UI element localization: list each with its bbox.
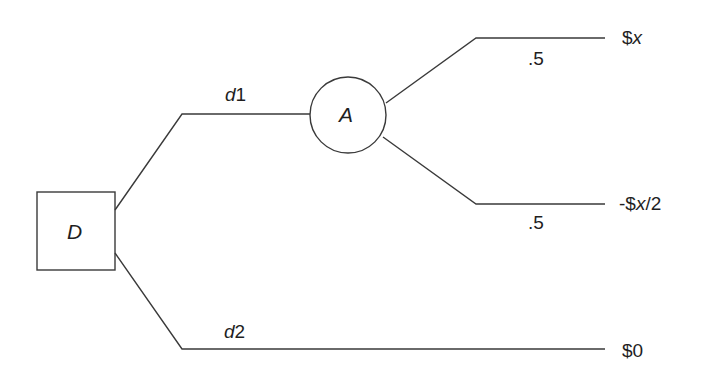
branch-a-up-line (386, 38, 605, 103)
outcome-neg-half-x-suffix: /2 (645, 193, 661, 214)
branch-d1-number: 1 (236, 84, 247, 105)
outcome-x-prefix: $ (622, 27, 633, 48)
branch-d2-line (115, 253, 605, 349)
probability-down-label: .5 (528, 213, 544, 232)
chance-node-label: A (339, 104, 353, 125)
decision-node-label: D (67, 221, 82, 242)
branch-d2-letter: d (224, 321, 235, 342)
branch-d1-line (115, 114, 310, 210)
branch-d2-number: 2 (235, 321, 246, 342)
outcome-x-label: $x (622, 28, 642, 47)
probability-up-label: .5 (528, 49, 544, 68)
decision-tree-diagram: D A d1 d2 .5 .5 $x -$x/2 $0 (0, 0, 708, 374)
branch-d2-label: d2 (224, 322, 245, 341)
outcome-neg-half-x-label: -$x/2 (619, 194, 661, 213)
branch-a-down-line (383, 137, 605, 204)
branch-d1-letter: d (225, 84, 236, 105)
outcome-x-var: x (633, 27, 643, 48)
branch-d1-label: d1 (225, 85, 246, 104)
tree-lines (0, 0, 708, 374)
outcome-neg-half-x-prefix: -$ (619, 193, 636, 214)
outcome-zero-label: $0 (622, 341, 643, 360)
outcome-neg-half-x-var: x (636, 193, 646, 214)
